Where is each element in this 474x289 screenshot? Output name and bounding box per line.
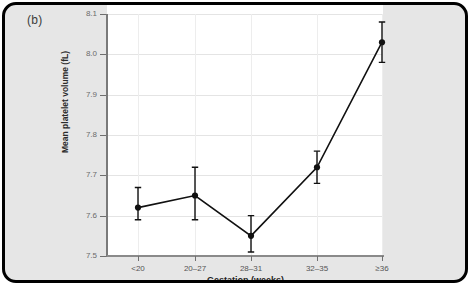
y-tick-label: 7.8 [73, 130, 97, 139]
y-tick-mark [100, 54, 106, 55]
panel-label: (b) [27, 13, 43, 27]
data-point-marker [192, 192, 198, 198]
data-point-marker [248, 233, 254, 239]
plot-area [107, 14, 383, 256]
data-point-marker [135, 205, 141, 211]
y-tick-mark [100, 135, 106, 136]
x-tick-label: ≥36 [375, 264, 388, 273]
x-tick-label: <20 [131, 264, 145, 273]
y-tick-label: 7.7 [73, 170, 97, 179]
x-tick-mark [195, 256, 196, 261]
y-axis-line [106, 14, 108, 257]
x-tick-label: 20–27 [184, 264, 206, 273]
y-tick-mark [100, 256, 106, 257]
y-tick-label: 8.1 [73, 9, 97, 18]
y-tick-mark [100, 216, 106, 217]
figure-frame: (b) 7.57.67.77.87.98.08.1 <2020–2728–313… [2, 2, 468, 283]
data-series-svg [107, 14, 383, 256]
y-tick-label: 7.5 [73, 251, 97, 260]
y-tick-mark [100, 175, 106, 176]
x-tick-mark [317, 256, 318, 261]
y-tick-label: 8.0 [73, 49, 97, 58]
y-tick-label: 7.9 [73, 90, 97, 99]
data-point-marker [314, 164, 320, 170]
data-point-marker [379, 39, 385, 45]
x-axis-title: Gestation (weeks) [107, 275, 384, 283]
x-tick-label: 28–31 [240, 264, 262, 273]
x-axis-line [107, 255, 384, 257]
y-axis-title: Mean platelet volume (fL) [60, 37, 70, 167]
y-tick-label: 7.6 [73, 211, 97, 220]
x-tick-mark [382, 256, 383, 261]
x-tick-mark [251, 256, 252, 261]
x-tick-label: 32–35 [306, 264, 328, 273]
x-tick-mark [138, 256, 139, 261]
y-tick-mark [100, 95, 106, 96]
y-tick-mark [100, 14, 106, 15]
y-axis-tick-labels: 7.57.67.77.87.98.08.1 [71, 5, 97, 283]
series-line [138, 42, 382, 236]
